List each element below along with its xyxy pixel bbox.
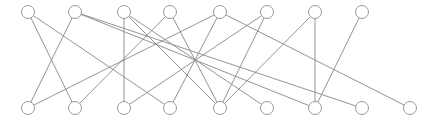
bottom-node-b0 [22, 102, 35, 115]
bottom-node-b8 [404, 102, 417, 115]
top-node-t5 [261, 6, 274, 19]
top-node-t4 [214, 6, 227, 19]
bottom-node-b6 [309, 102, 322, 115]
edge-t5-b4 [220, 12, 267, 108]
edge-t2-b4 [124, 12, 220, 108]
top-node-t7 [356, 6, 369, 19]
bottom-node-b3 [164, 102, 177, 115]
edge-t7-b6 [315, 12, 362, 108]
bottom-node-b2 [118, 102, 131, 115]
edge-t6-b4 [220, 12, 315, 108]
edge-t0-b3 [28, 12, 170, 108]
edge-t1-b7 [75, 12, 362, 108]
bipartite-graph [0, 0, 434, 123]
edge-layer [28, 12, 410, 108]
bottom-node-b4 [214, 102, 227, 115]
top-node-t3 [164, 6, 177, 19]
bottom-node-b1 [69, 102, 82, 115]
bottom-node-b5 [261, 102, 274, 115]
top-node-t0 [22, 6, 35, 19]
edge-t3-b1 [75, 12, 170, 108]
bottom-node-b7 [356, 102, 369, 115]
top-node-t6 [309, 6, 322, 19]
top-node-t1 [69, 6, 82, 19]
top-node-t2 [118, 6, 131, 19]
